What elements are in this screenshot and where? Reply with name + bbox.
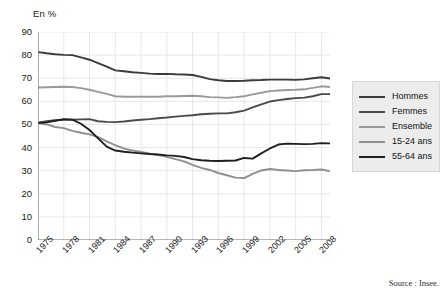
line-chart-svg <box>38 32 330 240</box>
gridlines <box>38 32 330 240</box>
legend-item-label: Femmes <box>392 107 427 116</box>
legend-item-15-24-ans[interactable]: 15-24 ans <box>359 134 433 149</box>
y-tick-label: 80 <box>8 49 32 60</box>
y-tick-label: 90 <box>8 26 32 37</box>
legend-item-label: 15-24 ans <box>392 137 432 146</box>
legend-item-femmes[interactable]: Femmes <box>359 104 433 119</box>
y-tick-label: 50 <box>8 118 32 129</box>
y-tick-label: 70 <box>8 72 32 83</box>
legend-item-hommes[interactable]: Hommes <box>359 89 433 104</box>
chart-legend: HommesFemmesEnsemble15-24 ans55-64 ans <box>352 81 440 172</box>
legend-item-55-64-ans[interactable]: 55-64 ans <box>359 149 433 164</box>
plot-area <box>38 32 330 240</box>
y-tick-label: 0 <box>8 234 32 245</box>
axis-lines <box>38 32 330 240</box>
legend-line-swatch <box>359 111 385 113</box>
legend-item-label: Ensemble <box>392 122 432 131</box>
y-tick-label: 30 <box>8 165 32 176</box>
series-line-55-64-ans <box>38 119 330 161</box>
legend-line-swatch <box>359 126 385 128</box>
series-line-ensemble <box>38 86 330 98</box>
legend-item-label: Hommes <box>392 92 428 101</box>
y-axis-unit-label: En % <box>33 8 57 19</box>
series-line-hommes <box>38 52 330 81</box>
legend-item-label: 55-64 ans <box>392 152 432 161</box>
y-tick-label: 60 <box>8 95 32 106</box>
legend-line-swatch <box>359 141 385 143</box>
legend-line-swatch <box>359 96 385 98</box>
y-tick-label: 20 <box>8 188 32 199</box>
y-tick-label: 10 <box>8 211 32 222</box>
legend-item-ensemble[interactable]: Ensemble <box>359 119 433 134</box>
series-lines <box>38 52 330 178</box>
chart-figure: En % 0102030405060708090 197519781981198… <box>0 0 447 296</box>
legend-line-swatch <box>359 156 385 158</box>
y-tick-label: 40 <box>8 142 32 153</box>
source-note: Source : Insee. <box>389 278 439 288</box>
series-line-15-24-ans <box>38 123 330 178</box>
series-line-femmes <box>38 94 330 122</box>
